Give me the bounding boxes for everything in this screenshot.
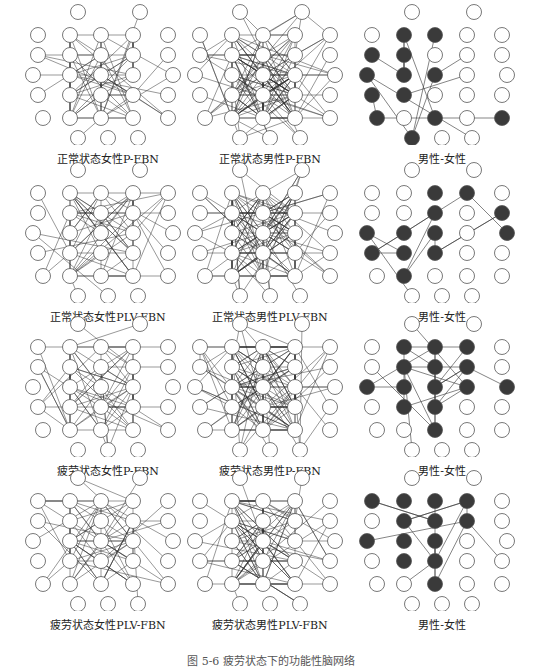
electrode-node [126, 554, 141, 569]
electrode-node [428, 28, 443, 43]
electrode-node [288, 186, 303, 201]
electrode-node [323, 340, 338, 355]
figure-caption: 图 5-6 疲劳状态下的功能性脑网络 [0, 652, 542, 668]
edge [232, 501, 330, 584]
electrode-node [126, 340, 141, 355]
electrode-node [233, 131, 248, 146]
electrode-node [293, 443, 308, 458]
electrode-node [500, 68, 515, 83]
electrode-node [370, 577, 385, 592]
electrode-node [71, 317, 86, 332]
electrode-node [495, 88, 510, 103]
electrode-node [397, 206, 412, 221]
electrode-node [71, 131, 86, 146]
edge [205, 55, 232, 118]
electrode-node [428, 186, 443, 201]
electrode-node [126, 577, 141, 592]
electrode-node [225, 423, 240, 438]
electrode-node [360, 68, 375, 83]
electrode-node [323, 186, 338, 201]
electrode-node [256, 554, 271, 569]
electrode-node [161, 360, 176, 375]
electrode-node [166, 226, 181, 241]
electrode-node [256, 400, 271, 415]
edge [372, 367, 435, 430]
electrode-node [63, 423, 78, 438]
electrode-node [126, 226, 141, 241]
electrode-node [495, 186, 510, 201]
electrode-node [495, 514, 510, 529]
electrode-node [405, 317, 420, 332]
electrode-node [370, 269, 385, 284]
electrode-node [323, 494, 338, 509]
electrode-node [225, 360, 240, 375]
electrode-node [161, 514, 176, 529]
electrode-node [328, 534, 343, 549]
electrode-node [428, 400, 443, 415]
electrode-node [31, 514, 46, 529]
electrode-node [397, 360, 412, 375]
electrode-node [126, 186, 141, 201]
electrode-node [63, 226, 78, 241]
electrode-node [256, 534, 271, 549]
electrode-node [328, 380, 343, 395]
electrode-node [360, 380, 375, 395]
electrode-node [71, 289, 86, 304]
electrode-node [63, 68, 78, 83]
electrode-node [225, 28, 240, 43]
network-panel: 正常状态女性PLV-FBN [18, 158, 198, 318]
electrode-node [63, 577, 78, 592]
brain-network-graph [180, 0, 360, 145]
electrode-node [288, 48, 303, 63]
electrode-node [465, 597, 480, 612]
electrode-node [460, 111, 475, 126]
electrode-node [161, 28, 176, 43]
electrode-node [397, 400, 412, 415]
electrode-node [428, 269, 443, 284]
electrode-node [126, 28, 141, 43]
electrode-node [460, 577, 475, 592]
edge [232, 213, 295, 276]
electrode-node [63, 48, 78, 63]
electrode-node [495, 340, 510, 355]
electrode-node [435, 443, 450, 458]
electrode-node [225, 186, 240, 201]
electrode-node [323, 206, 338, 221]
electrode-node [193, 554, 208, 569]
brain-network-graph [180, 158, 360, 303]
edge [232, 521, 295, 584]
electrode-node [495, 206, 510, 221]
electrode-node [225, 577, 240, 592]
electrode-node [193, 186, 208, 201]
network-panel: 男性-女性 [352, 158, 532, 318]
electrode-node [428, 534, 443, 549]
brain-network-graph [18, 466, 198, 611]
electrode-node [225, 400, 240, 415]
electrode-node [293, 597, 308, 612]
electrode-node [161, 246, 176, 261]
electrode-node [256, 246, 271, 261]
electrode-node [370, 423, 385, 438]
edge [232, 501, 330, 521]
electrode-node [428, 494, 443, 509]
electrode-node [288, 494, 303, 509]
electrode-node [133, 471, 148, 486]
electrode-node [94, 246, 109, 261]
electrode-node [323, 48, 338, 63]
brain-network-graph [352, 466, 532, 611]
edge [263, 193, 330, 253]
electrode-node [428, 88, 443, 103]
electrode-node [31, 246, 46, 261]
electrode-node [288, 28, 303, 43]
electrode-node [225, 226, 240, 241]
electrode-node [94, 554, 109, 569]
electrode-node [225, 534, 240, 549]
electrode-node [495, 360, 510, 375]
electrode-node [460, 246, 475, 261]
electrode-node [188, 380, 203, 395]
electrode-node [500, 380, 515, 395]
electrode-node [435, 597, 450, 612]
electrode-node [288, 514, 303, 529]
electrode-node [467, 163, 482, 178]
electrode-node [225, 514, 240, 529]
